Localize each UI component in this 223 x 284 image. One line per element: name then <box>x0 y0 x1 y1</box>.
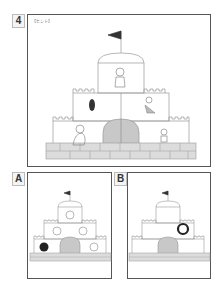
apple-icon <box>53 227 61 235</box>
option-b-badge[interactable]: B <box>114 172 127 186</box>
fairy-character <box>145 97 155 113</box>
dark-figure <box>89 99 95 111</box>
black-apple-icon <box>40 243 49 252</box>
flag-icon <box>64 191 70 195</box>
castle-with-apples <box>28 173 113 280</box>
castle-illustration <box>28 15 212 168</box>
flag-icon <box>162 191 168 195</box>
main-scene-frame: 【ヒント】 <box>27 14 211 167</box>
boy-character <box>161 129 167 142</box>
apple-icon <box>90 243 98 251</box>
option-b-frame[interactable] <box>127 172 211 279</box>
puzzle-number-badge: 4 <box>12 14 25 28</box>
option-a-badge[interactable]: A <box>12 172 25 186</box>
apple-icon <box>66 211 74 219</box>
old-woman-character <box>73 125 85 145</box>
apple-icon <box>79 227 87 235</box>
princess-character <box>115 68 125 87</box>
ring-icon <box>178 224 188 234</box>
castle-with-ring <box>128 173 212 280</box>
flag-icon <box>108 31 121 39</box>
option-a-frame[interactable] <box>27 172 112 279</box>
